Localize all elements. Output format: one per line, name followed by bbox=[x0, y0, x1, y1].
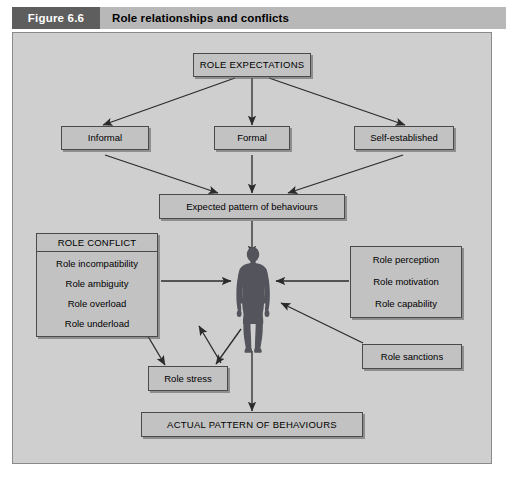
node-role-expectations-label: ROLE EXPECTATIONS bbox=[200, 59, 305, 71]
node-actual-pattern[interactable]: ACTUAL PATTERN OF BEHAVIOURS bbox=[141, 412, 363, 437]
figure-header-bar: Figure 6.6 Role relationships and confli… bbox=[12, 7, 506, 29]
node-role-sanctions[interactable]: Role sanctions bbox=[362, 344, 462, 369]
person-silhouette-icon bbox=[229, 246, 277, 354]
role-conflict-heading: ROLE CONFLICT bbox=[37, 234, 157, 252]
node-role-stress-label: Role stress bbox=[164, 373, 212, 385]
node-expected-pattern-label: Expected pattern of behaviours bbox=[186, 201, 318, 213]
node-actual-pattern-label: ACTUAL PATTERN OF BEHAVIOURS bbox=[167, 419, 337, 431]
diagram-panel: ROLE EXPECTATIONS Informal Formal Self-e… bbox=[12, 32, 492, 464]
node-role-stress[interactable]: Role stress bbox=[148, 366, 228, 391]
role-conflict-item: Role overload bbox=[37, 299, 157, 309]
figure-title: Role relationships and conflicts bbox=[100, 7, 506, 29]
node-role-sanctions-label: Role sanctions bbox=[381, 351, 443, 363]
node-informal[interactable]: Informal bbox=[61, 126, 149, 150]
arrow-expectations-to-informal bbox=[103, 78, 235, 125]
role-attributes-item: Role motivation bbox=[351, 277, 461, 287]
role-conflict-item: Role incompatibility bbox=[37, 259, 157, 269]
role-conflict-item: Role underload bbox=[37, 319, 157, 329]
role-attributes-items: Role perception Role motivation Role cap… bbox=[351, 247, 461, 317]
node-formal-label: Formal bbox=[237, 132, 267, 144]
node-informal-label: Informal bbox=[88, 132, 122, 144]
node-formal[interactable]: Formal bbox=[214, 126, 290, 150]
figure-container: Figure 6.6 Role relationships and confli… bbox=[0, 0, 506, 479]
node-expected-pattern[interactable]: Expected pattern of behaviours bbox=[159, 194, 345, 219]
node-role-expectations[interactable]: ROLE EXPECTATIONS bbox=[193, 53, 311, 77]
arrow-expectations-to-self-established bbox=[269, 78, 405, 125]
arrow-role-stress-to-person bbox=[199, 326, 221, 363]
arrow-self-established-to-expected bbox=[288, 155, 403, 193]
role-attributes-item: Role capability bbox=[351, 299, 461, 309]
node-self-established-label: Self-established bbox=[370, 132, 438, 144]
node-self-established[interactable]: Self-established bbox=[354, 126, 454, 150]
arrow-informal-to-expected bbox=[105, 155, 218, 193]
role-conflict-items: Role incompatibility Role ambiguity Role… bbox=[37, 252, 157, 336]
figure-number-tag: Figure 6.6 bbox=[12, 7, 100, 29]
role-conflict-item: Role ambiguity bbox=[37, 279, 157, 289]
node-role-attributes[interactable]: Role perception Role motivation Role cap… bbox=[350, 246, 462, 318]
role-attributes-item: Role perception bbox=[351, 255, 461, 265]
node-role-conflict[interactable]: ROLE CONFLICT Role incompatibility Role … bbox=[36, 233, 158, 337]
